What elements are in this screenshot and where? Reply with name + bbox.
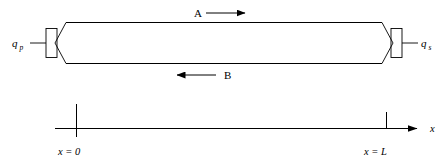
tick-label-xL: x = L — [363, 146, 387, 157]
flow-a-label: A — [194, 7, 202, 19]
x-axis-label: x — [429, 123, 435, 134]
left-port-symbol: q — [12, 37, 18, 49]
right-port-subscript: s — [429, 43, 432, 52]
diagram-canvas: q p q s A B x x = 0 x = L — [0, 0, 448, 162]
right-port-symbol: q — [421, 37, 427, 49]
left-port-subscript: p — [19, 43, 24, 52]
flow-b-label: B — [224, 69, 231, 81]
tick-label-x0: x = 0 — [57, 146, 81, 157]
diagram-svg: q p q s A B x x = 0 x = L — [0, 0, 448, 162]
